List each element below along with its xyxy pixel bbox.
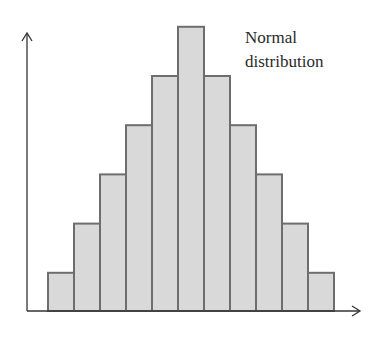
histogram-bar [204,76,230,311]
histogram-bar [100,174,126,311]
histogram-bar [230,125,256,311]
histogram-chart [0,0,377,339]
histogram-bar [178,27,204,311]
histogram-bar [256,174,282,311]
histogram-bar [126,125,152,311]
histogram-bar [152,76,178,311]
histogram-bar [74,224,100,311]
annotation-line-2: distribution [245,53,323,70]
histogram-bar [282,224,308,311]
histogram-bar [48,273,74,311]
annotation-line-1: Normal [245,29,297,46]
histogram-bar [308,273,334,311]
